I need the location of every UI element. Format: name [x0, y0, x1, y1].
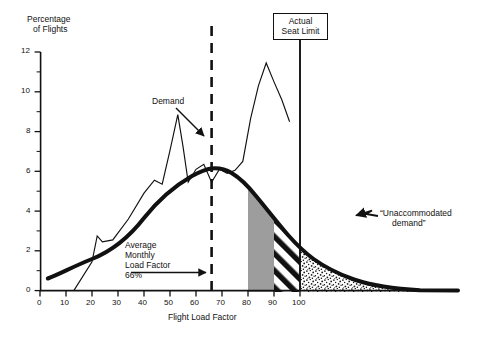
- y-tick-label-8: 8: [26, 126, 30, 135]
- chart-figure: Percentageof Flights Flight Load Factor …: [0, 0, 479, 338]
- avg-line-1: Average: [125, 240, 157, 250]
- unaccommodated-demand-arrow: [356, 211, 378, 217]
- x-tick-label-10: 10: [60, 298, 69, 307]
- actual-seat-limit-label: ActualSeat Limit: [274, 17, 327, 37]
- y-axis-title: Percentageof Flights: [27, 14, 70, 34]
- average-load-factor-annotation: AverageMonthlyLoad Factor66%: [125, 240, 170, 280]
- x-tick-label-0: 0: [37, 298, 41, 307]
- y-tick-label-6: 6: [26, 166, 30, 175]
- hatched-band-region: [274, 40, 300, 292]
- x-tick-label-20: 20: [86, 298, 95, 307]
- avg-line-2: Monthly: [125, 250, 155, 260]
- x-tick-label-30: 30: [112, 298, 121, 307]
- shaded-regions: [248, 40, 460, 292]
- seat-limit-line-2: Seat Limit: [282, 26, 320, 36]
- x-tick-label-70: 70: [216, 298, 225, 307]
- unaccommodated-line-1: “Unaccommodated: [380, 208, 452, 218]
- avg-line-4: 66%: [125, 270, 142, 280]
- y-tick-label-0: 0: [26, 285, 30, 294]
- y-axis-ticks: [35, 52, 41, 291]
- x-axis-title: Flight Load Factor: [168, 312, 237, 322]
- y-axis-title-line1: Percentage: [27, 14, 70, 24]
- y-tick-label-12: 12: [21, 46, 30, 55]
- unaccommodated-line-2: demand”: [380, 218, 426, 228]
- x-tick-label-100: 100: [292, 298, 305, 307]
- axes: [35, 52, 458, 297]
- unaccommodated-demand-annotation: “Unaccommodateddemand”: [380, 208, 452, 228]
- seat-limit-line-1: Actual: [289, 16, 313, 26]
- x-tick-label-90: 90: [268, 298, 277, 307]
- actual-seat-limit-callout-box: ActualSeat Limit: [273, 13, 328, 40]
- x-tick-label-50: 50: [164, 298, 173, 307]
- stippled-band-region: [300, 40, 460, 292]
- y-tick-label-10: 10: [21, 86, 30, 95]
- demand-annotation-label: Demand: [152, 96, 184, 106]
- x-tick-label-60: 60: [190, 298, 199, 307]
- y-axis-title-line2: of Flights: [27, 24, 68, 34]
- y-tick-label-2: 2: [26, 245, 30, 254]
- avg-line-3: Load Factor: [125, 260, 170, 270]
- x-tick-label-40: 40: [138, 298, 147, 307]
- y-tick-label-4: 4: [26, 206, 30, 215]
- x-tick-label-80: 80: [242, 298, 251, 307]
- flight-load-factor-chart: [0, 0, 479, 338]
